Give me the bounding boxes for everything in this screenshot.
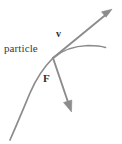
figure-canvas — [0, 0, 122, 144]
particle-label: particle — [4, 43, 38, 54]
particle-trajectory-figure: particle v F — [0, 0, 122, 144]
force-vector-label: F — [43, 73, 50, 84]
force-arrowhead-icon — [64, 100, 72, 112]
force-vector-shaft — [53, 58, 69, 105]
velocity-vector-label: v — [56, 29, 61, 39]
trajectory-curve — [10, 46, 106, 141]
velocity-vector-shaft — [53, 13, 109, 59]
